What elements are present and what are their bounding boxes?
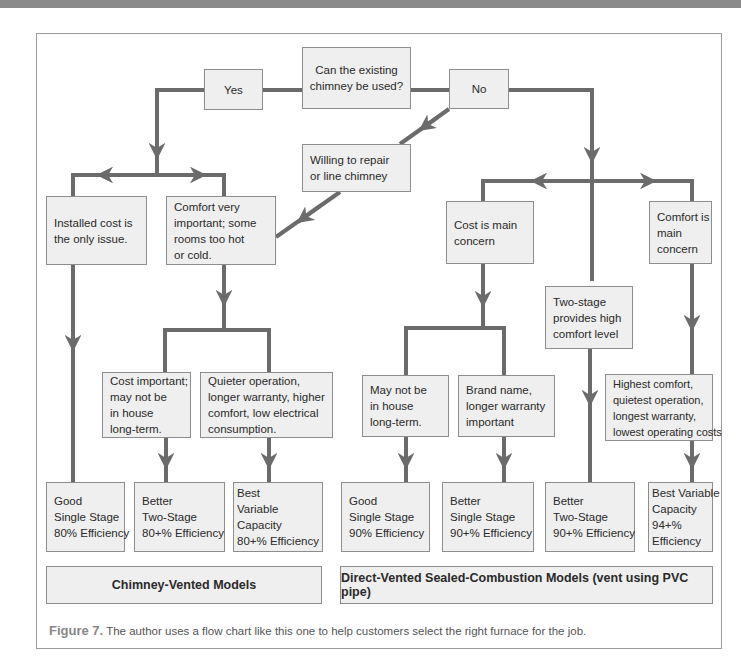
arrow-diagonal-icon	[298, 206, 320, 222]
result-line: 90+% Efficiency	[450, 525, 526, 541]
figure-caption: Figure 7. The author uses a flow chart l…	[49, 623, 586, 638]
highest-comfort-line: lowest operating costs	[613, 424, 705, 440]
highest-comfort-line: longest warranty,	[613, 408, 705, 424]
cost-main-box: Cost is main concern	[446, 201, 534, 264]
result-line: Two-Stage	[142, 509, 217, 525]
result-line: Best	[237, 485, 319, 501]
result-line: Good	[54, 493, 117, 509]
result-best-variable-80: Best Variable Capacity 80+% Efficiency	[233, 482, 323, 552]
brand-name-line: Brand name,	[466, 382, 547, 398]
footer-direct-vented: Direct-Vented Sealed-Combustion Models (…	[340, 566, 713, 604]
result-line: 90% Efficiency	[349, 525, 422, 541]
quieter-line: comfort, low electrical	[208, 405, 325, 421]
comfort-main-line: main	[657, 225, 704, 241]
question-line: Can the existing	[315, 62, 397, 78]
installed-cost-box: Installed cost is the only issue.	[46, 196, 147, 265]
result-line: 80+% Efficiency	[237, 533, 319, 549]
quieter-line: longer warranty, higher	[208, 389, 325, 405]
arrow-diagonal-icon	[420, 117, 438, 130]
result-line: Better	[553, 493, 627, 509]
result-line: Single Stage	[349, 509, 422, 525]
result-line: Better	[142, 493, 217, 509]
brand-name-line: important	[466, 414, 547, 430]
cost-important-line: Cost important;	[110, 373, 183, 389]
comfort-main-box: Comfort is main concern	[649, 201, 712, 264]
comfort-very-box: Comfort very important; some rooms too h…	[166, 196, 276, 265]
highest-comfort-line: quietest operation,	[613, 392, 705, 408]
result-line: 90+% Efficiency	[553, 525, 627, 541]
result-line: Two-Stage	[553, 509, 627, 525]
result-line: Good	[349, 493, 422, 509]
cost-main-line: concern	[454, 233, 526, 249]
willing-box: Willing to repair or line chimney	[302, 144, 411, 192]
quieter-line: consumption.	[208, 421, 325, 437]
quieter-line: Quieter operation,	[208, 373, 325, 389]
yes-box: Yes	[204, 69, 263, 110]
willing-line: or line chimney	[310, 168, 403, 184]
caption-label: Figure 7.	[49, 623, 103, 638]
footer-chimney-vented: Chimney-Vented Models	[46, 566, 322, 604]
result-better-two-stage-90: Better Two-Stage 90+% Efficiency	[545, 482, 635, 552]
no-label: No	[472, 81, 487, 97]
result-line: Single Stage	[54, 509, 117, 525]
result-line: 80% Efficiency	[54, 525, 117, 541]
may-not-line: May not be	[370, 382, 441, 398]
cost-important-line: in house	[110, 405, 183, 421]
cost-important-line: long-term.	[110, 421, 183, 437]
comfort-main-line: concern	[657, 241, 704, 257]
footer-direct-label: Direct-Vented Sealed-Combustion Models (…	[341, 571, 712, 599]
caption-text: The author uses a flow chart like this o…	[103, 625, 586, 637]
cost-important-box: Cost important; may not be in house long…	[102, 372, 191, 438]
highest-comfort-line: Highest comfort,	[613, 376, 705, 392]
result-good-90: Good Single Stage 90% Efficiency	[341, 482, 430, 552]
two-stage-line: provides high	[553, 310, 625, 326]
installed-cost-line: the only issue.	[54, 231, 139, 247]
yes-label: Yes	[224, 82, 243, 98]
cost-important-line: may not be	[110, 389, 183, 405]
result-line: 80+% Efficiency	[142, 525, 217, 541]
comfort-very-line: important; some	[174, 215, 268, 231]
footer-chimney-label: Chimney-Vented Models	[112, 578, 256, 592]
two-stage-line: comfort level	[553, 326, 625, 342]
two-stage-provides-box: Two-stage provides high comfort level	[545, 286, 633, 349]
willing-line: Willing to repair	[310, 152, 403, 168]
result-better-two-stage-80: Better Two-Stage 80+% Efficiency	[134, 482, 225, 552]
highest-comfort-box: Highest comfort, quietest operation, lon…	[605, 374, 713, 441]
result-good-80: Good Single Stage 80% Efficiency	[46, 482, 125, 552]
result-line: Capacity	[237, 517, 319, 533]
comfort-very-line: Comfort very	[174, 199, 268, 215]
result-line: 94+%	[652, 517, 709, 533]
no-box: No	[449, 69, 509, 109]
two-stage-line: Two-stage	[553, 294, 625, 310]
comfort-very-line: or cold.	[174, 247, 268, 263]
may-not-box: May not be in house long-term.	[362, 375, 449, 437]
question-box: Can the existing chimney be used?	[302, 47, 411, 109]
may-not-line: long-term.	[370, 414, 441, 430]
brand-name-box: Brand name, longer warranty important	[458, 375, 555, 437]
cost-main-line: Cost is main	[454, 217, 526, 233]
comfort-main-line: Comfort is	[657, 209, 704, 225]
result-line: Efficiency	[652, 533, 709, 549]
question-line: chimney be used?	[310, 78, 403, 94]
may-not-line: in house	[370, 398, 441, 414]
comfort-very-line: rooms too hot	[174, 231, 268, 247]
installed-cost-line: Installed cost is	[54, 215, 139, 231]
result-line: Single Stage	[450, 509, 526, 525]
result-line: Better	[450, 493, 526, 509]
result-best-variable-94: Best Variable Capacity 94+% Efficiency	[648, 482, 713, 552]
brand-name-line: longer warranty	[466, 398, 547, 414]
result-line: Variable	[237, 501, 319, 517]
result-line: Best Variable	[652, 485, 709, 501]
result-line: Capacity	[652, 501, 709, 517]
result-better-single-90: Better Single Stage 90+% Efficiency	[442, 482, 534, 552]
quieter-operation-box: Quieter operation, longer warranty, high…	[200, 372, 333, 438]
